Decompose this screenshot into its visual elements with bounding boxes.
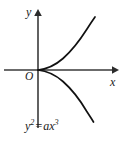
curve-lower-branch [38,70,94,122]
y-axis-label: y [26,6,31,18]
origin-label: O [25,71,33,83]
y-axis-arrow-icon [34,9,42,16]
equation-operator: = [34,119,43,133]
coordinate-plot [0,0,125,145]
x-axis-label: x [110,76,115,88]
math-figure-semicubical-parabola: y x O y2=ax3 [0,0,125,145]
x-axis-arrow-icon [112,66,119,74]
equation-rhs-exponent: 3 [55,118,59,127]
curve-equation-caption: y2=ax3 [25,120,59,132]
curve-upper-branch [38,17,95,70]
